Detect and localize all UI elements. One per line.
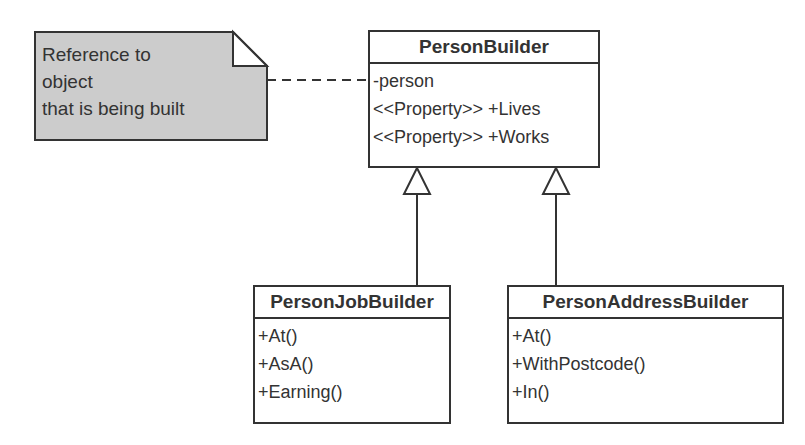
class-person-job-builder[interactable]: PersonJobBuilder +At() +AsA() +Earning()	[253, 285, 451, 424]
class-member: -person	[373, 67, 598, 95]
class-members: -person <<Property>> +Lives <<Property>>…	[370, 64, 598, 151]
class-member: +In()	[512, 378, 782, 406]
class-members: +At() +AsA() +Earning()	[255, 319, 449, 406]
class-member: +WithPostcode()	[512, 350, 782, 378]
class-name: PersonJobBuilder	[255, 287, 449, 319]
class-member: +At()	[512, 322, 782, 350]
class-member: <<Property>> +Works	[373, 123, 598, 151]
note-line: Reference to	[42, 41, 185, 68]
class-members: +At() +WithPostcode() +In()	[509, 319, 782, 406]
class-member: +AsA()	[258, 350, 449, 378]
class-name: PersonAddressBuilder	[509, 287, 782, 319]
note-reference[interactable]: Reference to object that is being built	[35, 32, 267, 140]
note-line: that is being built	[42, 95, 185, 122]
generalization-arrow-job	[404, 168, 430, 285]
note-line: object	[42, 68, 185, 95]
note-text: Reference to object that is being built	[42, 41, 185, 122]
class-person-builder[interactable]: PersonBuilder -person <<Property>> +Live…	[368, 30, 600, 168]
class-member: +Earning()	[258, 378, 449, 406]
class-name: PersonBuilder	[370, 32, 598, 64]
class-member: <<Property>> +Lives	[373, 95, 598, 123]
class-person-address-builder[interactable]: PersonAddressBuilder +At() +WithPostcode…	[507, 285, 784, 424]
class-member: +At()	[258, 322, 449, 350]
generalization-arrow-address	[543, 168, 569, 285]
